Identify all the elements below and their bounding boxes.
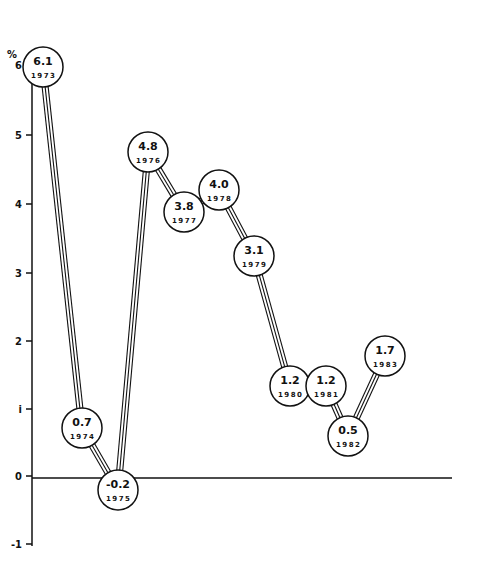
point-year: 1981: [314, 391, 339, 399]
point-value: 4.8: [138, 140, 158, 153]
data-points: 6.119730.71974-0.219754.819763.819774.01…: [23, 47, 405, 510]
y-tick-label: 4: [15, 198, 22, 211]
point-year: 1977: [172, 217, 197, 225]
data-point: 0.71974: [62, 408, 102, 448]
point-year: 1980: [278, 391, 303, 399]
point-value: 1.2: [280, 374, 300, 387]
point-value: -0.2: [106, 478, 130, 491]
data-point: 4.01978: [199, 170, 239, 210]
point-year: 1983: [373, 361, 398, 369]
connector-line: [91, 444, 109, 475]
connector-line: [256, 274, 282, 369]
connector-line: [120, 170, 147, 472]
y-axis: %: [7, 48, 452, 546]
point-year: 1975: [106, 495, 131, 503]
point-value: 1.7: [375, 344, 395, 357]
y-tick-label: 5: [15, 129, 22, 142]
data-point: 1.21981: [306, 366, 346, 406]
connector-line: [123, 170, 150, 472]
connector-line: [48, 85, 83, 410]
point-year: 1978: [207, 195, 232, 203]
connector-line: [259, 273, 285, 368]
data-point: 3.11979: [234, 236, 274, 276]
data-point: 6.11973: [23, 47, 63, 87]
connector-line: [227, 206, 245, 240]
connector-line: [356, 372, 378, 419]
point-value: 3.8: [174, 200, 194, 213]
y-tick-label: -1: [11, 538, 22, 551]
y-tick-label: 2: [15, 335, 22, 348]
y-ticks: 65432i0-1: [11, 59, 32, 551]
data-point: 1.71983: [365, 336, 405, 376]
y-tick-label: 6: [15, 59, 22, 72]
data-point: 4.81976: [128, 132, 168, 172]
y-tick-label: 3: [15, 267, 22, 280]
point-year: 1979: [242, 261, 267, 269]
point-value: 1.2: [316, 374, 336, 387]
point-year: 1976: [136, 157, 161, 165]
point-value: 0.5: [338, 424, 358, 437]
data-point: 1.21980: [270, 366, 310, 406]
y-tick-label: i: [19, 403, 22, 416]
chart: % 65432i0-1 6.119730.71974-0.219754.8197…: [0, 0, 480, 580]
connector-line: [157, 167, 174, 196]
point-value: 0.7: [72, 416, 92, 429]
y-tick-label: 0: [15, 470, 22, 483]
connector-line: [117, 170, 144, 472]
connector-line: [262, 273, 288, 368]
data-point: 3.81977: [164, 192, 204, 232]
connector-line: [45, 85, 80, 410]
point-value: 6.1: [33, 55, 53, 68]
point-value: 3.1: [244, 244, 264, 257]
point-value: 4.0: [209, 178, 229, 191]
point-year: 1974: [70, 433, 95, 441]
connector-line: [42, 85, 77, 410]
data-point: 0.51982: [328, 416, 368, 456]
point-year: 1973: [31, 72, 56, 80]
data-point: -0.21975: [98, 470, 138, 510]
point-year: 1982: [336, 441, 361, 449]
